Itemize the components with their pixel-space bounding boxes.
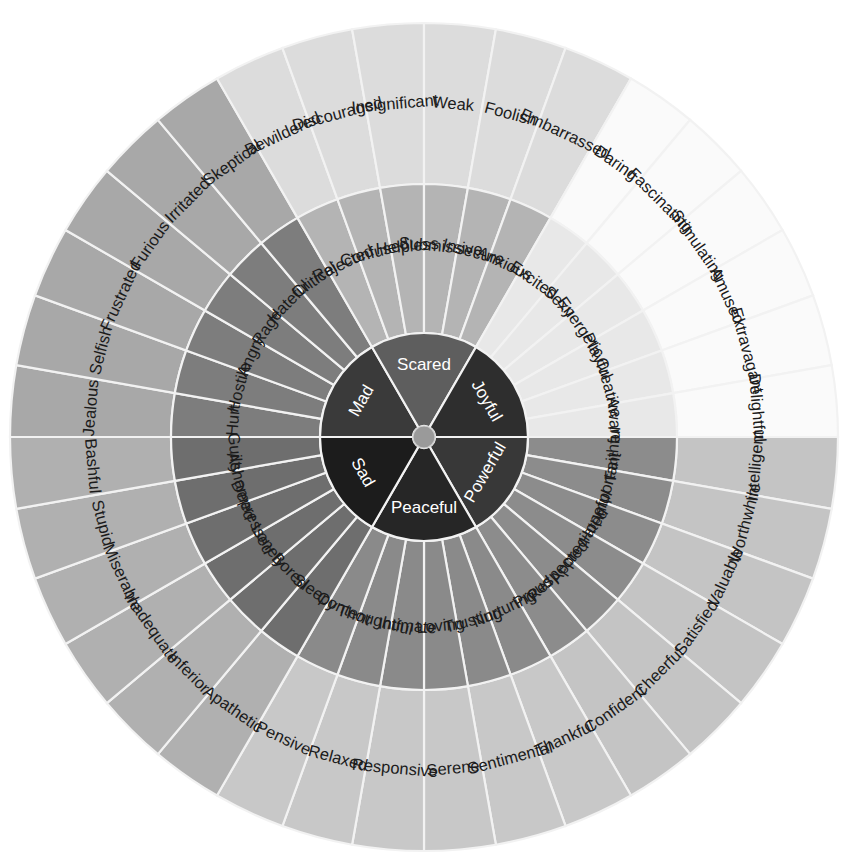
- hub-circle: [413, 426, 435, 448]
- feelings-wheel-svg: JealousSelfishFrustratedFuriousIrritated…: [0, 0, 847, 856]
- feelings-wheel: JealousSelfishFrustratedFuriousIrritated…: [0, 0, 847, 856]
- wheel-hub: [413, 426, 435, 448]
